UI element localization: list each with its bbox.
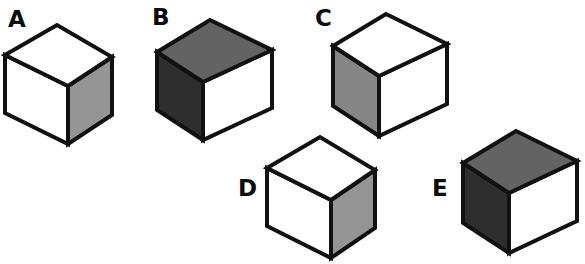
cube-e: [463, 131, 577, 253]
figure-canvas: ABCDE: [0, 0, 585, 264]
cube-a: [5, 25, 112, 144]
cube-b-label: B: [152, 4, 170, 30]
cube-d-label: D: [238, 175, 257, 201]
cube-b: [157, 20, 272, 140]
cube-e-label: E: [432, 175, 448, 201]
cube-d: [267, 137, 375, 258]
cube-a-label: A: [8, 6, 26, 32]
cubes-figure: ABCDE: [0, 0, 585, 264]
cube-c: [333, 14, 447, 136]
cube-c-label: C: [315, 5, 332, 31]
